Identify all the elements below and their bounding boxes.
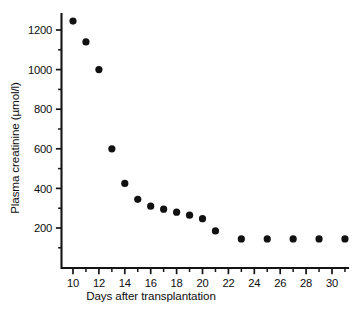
x-tick-label: 12 bbox=[93, 277, 105, 289]
chart-figure: 2004006008001000120010121416182022242628… bbox=[0, 0, 355, 314]
data-series bbox=[69, 17, 348, 242]
data-point bbox=[186, 212, 193, 219]
y-tick-label: 400 bbox=[34, 183, 52, 195]
data-point bbox=[95, 66, 102, 73]
x-tick-label: 20 bbox=[196, 277, 208, 289]
data-point bbox=[69, 17, 76, 24]
data-point bbox=[173, 209, 180, 216]
y-tick-label: 600 bbox=[34, 143, 52, 155]
data-point bbox=[160, 206, 167, 213]
x-tick-label: 18 bbox=[171, 277, 183, 289]
data-point bbox=[134, 196, 141, 203]
x-tick-label: 28 bbox=[300, 277, 312, 289]
y-tick-label: 200 bbox=[34, 222, 52, 234]
x-tick-label: 26 bbox=[274, 277, 286, 289]
data-point bbox=[315, 235, 322, 242]
data-point bbox=[264, 235, 271, 242]
data-point bbox=[290, 235, 297, 242]
data-point bbox=[199, 215, 206, 222]
data-point bbox=[212, 227, 219, 234]
y-tick-label: 800 bbox=[34, 103, 52, 115]
data-point bbox=[121, 180, 128, 187]
x-tick-label: 16 bbox=[145, 277, 157, 289]
data-point bbox=[82, 38, 89, 45]
y-axis-title: Plasma creatinine (µmol/l) bbox=[8, 82, 21, 214]
x-tick-label: 24 bbox=[248, 277, 260, 289]
y-tick-label: 1000 bbox=[28, 64, 52, 76]
axis-spine bbox=[62, 14, 349, 268]
x-tick-label: 30 bbox=[326, 277, 338, 289]
data-point bbox=[108, 145, 115, 152]
y-tick-label: 1200 bbox=[28, 24, 52, 36]
x-tick-label: 14 bbox=[119, 277, 131, 289]
data-point bbox=[341, 235, 348, 242]
x-axis-title: Days after transplantation bbox=[86, 289, 216, 302]
scatter-plot: 2004006008001000120010121416182022242628… bbox=[0, 0, 355, 314]
data-point bbox=[147, 203, 154, 210]
x-tick-label: 22 bbox=[222, 277, 234, 289]
data-point bbox=[238, 235, 245, 242]
x-tick-label: 10 bbox=[67, 277, 79, 289]
